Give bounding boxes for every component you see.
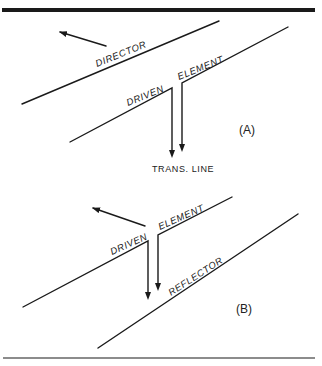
panel-label-a: (A): [239, 123, 255, 137]
feed-arrow-right-icon: [155, 283, 161, 291]
driven-element-left: [23, 241, 148, 307]
direction-arrow-icon: [60, 32, 106, 46]
element-label: ELEMENT: [156, 202, 206, 232]
feed-arrow-left-icon: [169, 150, 175, 158]
feed-arrow-left-icon: [145, 292, 151, 300]
driven-element-left: [70, 88, 172, 152]
top-rule: [2, 8, 315, 12]
feed-arrow-right-icon: [179, 144, 185, 152]
panel-b: DRIVEN ELEMENT REFLECTOR (B): [23, 197, 298, 348]
panel-label-b: (B): [236, 302, 252, 316]
director-element: [22, 21, 219, 104]
direction-arrow-icon: [93, 208, 145, 226]
trans-line-label: TRANS. LINE: [152, 164, 214, 174]
antenna-diagram: DIRECTOR DRIVEN ELEMENT TRANS. LINE (A) …: [0, 0, 322, 366]
driven-label: DRIVEN: [125, 83, 166, 108]
reflector-element: [98, 214, 298, 348]
driven-element-right: [182, 27, 288, 146]
element-label: ELEMENT: [176, 53, 226, 82]
panel-a: DIRECTOR DRIVEN ELEMENT TRANS. LINE (A): [22, 21, 288, 174]
reflector-label: REFLECTOR: [166, 254, 225, 297]
